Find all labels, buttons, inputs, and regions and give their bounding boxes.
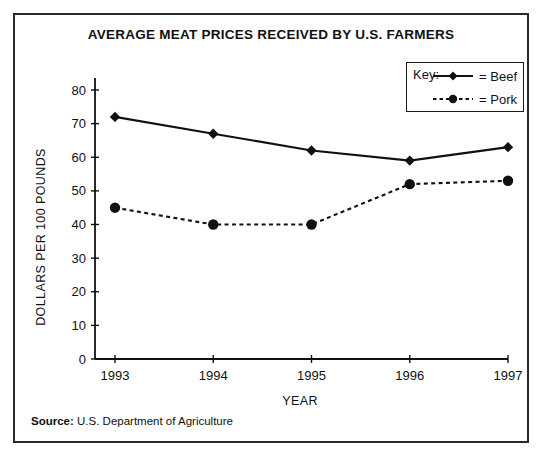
source-text: U.S. Department of Agriculture [77,415,233,427]
data-point-beef [306,145,316,155]
chart-figure-frame: AVERAGE MEAT PRICES RECEIVED BY U.S. FAR… [13,13,529,443]
legend-label-beef: = Beef [479,69,517,84]
legend-entry-beef: = Beef [407,64,523,88]
y-axis: 01020304050607080 [72,78,99,367]
legend-label-pork: = Pork [479,92,517,107]
source-label: Source: [31,415,74,427]
data-point-pork [208,219,218,229]
x-axis-tick-label: 1995 [297,368,326,383]
y-axis-tick-label: 80 [72,83,86,98]
y-axis-tick-label: 60 [72,150,86,165]
legend-marker-beef-icon [432,70,474,82]
x-axis-tick-label: 1993 [101,368,130,383]
y-axis-tick-label: 20 [72,284,86,299]
y-axis-tick-label: 10 [72,318,86,333]
data-point-pork [306,219,316,229]
data-series-group [110,112,513,230]
data-point-pork [405,179,415,189]
legend-marker-pork-icon [432,93,474,105]
data-point-beef [405,155,415,165]
y-axis-tick-label: 50 [72,183,86,198]
chart-legend: Key: = Beef = Pork [406,62,524,112]
y-axis-tick-label: 70 [72,116,86,131]
legend-entry-pork: = Pork [407,87,523,111]
data-point-beef [503,142,513,152]
y-axis-title: DOLLARS PER 100 POUNDS [34,148,48,326]
y-axis-tick-label: 0 [79,352,86,367]
series-line-pork [115,181,508,225]
data-point-beef [110,112,120,122]
x-axis: 19931994199519961997 [95,355,522,383]
y-axis-tick-label: 30 [72,251,86,266]
y-axis-tick-label: 40 [72,217,86,232]
source-note: Source: U.S. Department of Agriculture [31,415,233,427]
x-axis-title: YEAR [282,394,318,408]
data-point-pork [503,176,513,186]
data-point-pork [110,202,120,212]
x-axis-tick-label: 1997 [494,368,523,383]
x-axis-tick-label: 1996 [395,368,424,383]
x-axis-tick-label: 1994 [199,368,228,383]
data-point-beef [208,129,218,139]
